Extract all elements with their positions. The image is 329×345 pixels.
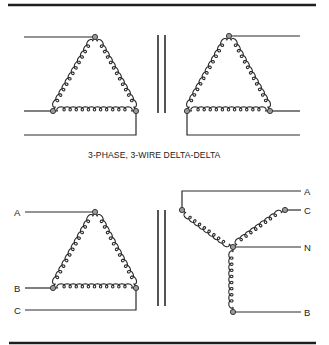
top-transformer-core: [158, 35, 165, 113]
top-right-delta-winding: [184, 33, 300, 135]
top-left-delta-winding: [24, 34, 139, 135]
terminal-node: [267, 108, 272, 113]
terminal-node: [282, 207, 287, 212]
winding-coil: [95, 37, 136, 111]
terminal-label-c: C: [304, 205, 311, 216]
terminal-label-n: N: [304, 242, 311, 253]
terminal-label-a: A: [304, 186, 311, 197]
terminal-label-b: B: [14, 283, 20, 294]
winding-coil: [187, 36, 229, 111]
terminal-node: [50, 285, 55, 290]
terminal-node: [179, 207, 184, 212]
transformer-connection-diagram: 3-PHASE, 3-WIRE DELTA-DELTA A B C A C N …: [0, 0, 329, 345]
bottom-transformer-core: [158, 210, 165, 306]
winding-coil: [53, 107, 136, 111]
terminal-label-c: C: [14, 305, 21, 316]
terminal-node: [92, 34, 97, 39]
winding-coil: [229, 247, 233, 312]
winding-coil: [53, 212, 95, 288]
winding-coil: [233, 210, 285, 247]
neutral-node: [230, 244, 235, 249]
winding-coil: [187, 107, 270, 111]
terminal-node: [133, 285, 138, 290]
terminal-node: [133, 108, 138, 113]
bottom-left-delta-winding: A B C: [14, 207, 139, 316]
winding-coil: [53, 284, 136, 288]
diagram-caption: 3-PHASE, 3-WIRE DELTA-DELTA: [88, 150, 221, 160]
terminal-node: [92, 209, 97, 214]
winding-coil: [229, 36, 270, 111]
winding-coil: [182, 210, 233, 247]
terminal-node: [184, 108, 189, 113]
winding-coil: [53, 37, 95, 111]
terminal-node: [230, 309, 235, 314]
bottom-right-wye-winding: A C N B: [179, 186, 311, 318]
terminal-node: [50, 108, 55, 113]
winding-coil: [95, 212, 137, 288]
terminal-node: [226, 33, 231, 38]
terminal-label-a: A: [14, 207, 21, 218]
terminal-label-b: B: [304, 307, 310, 318]
